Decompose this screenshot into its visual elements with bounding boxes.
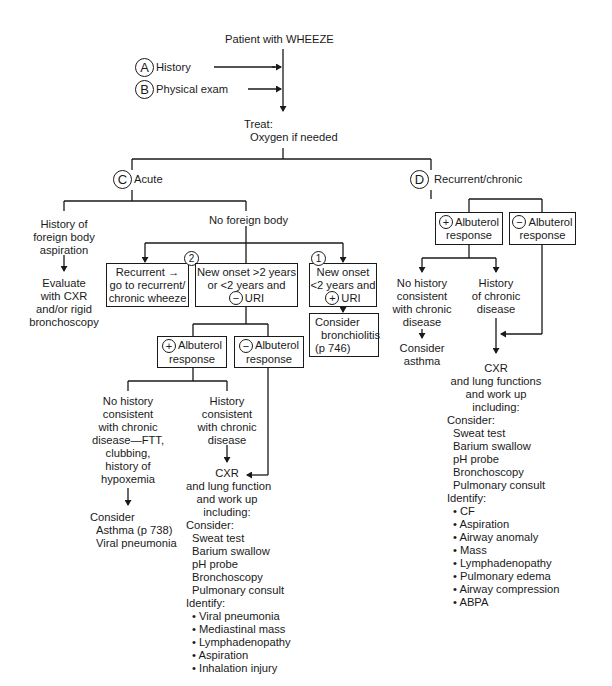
acute-workup: CXR and lung function and work up includ… <box>186 467 291 675</box>
foreign-body-history: History of foreign body aspiration <box>24 218 104 257</box>
recurrent-box: Recurrent → go to recurrent/ chronic whe… <box>106 263 189 307</box>
step-history: A History <box>135 58 191 77</box>
chronic-albuterol-positive-box: +Albuterol response <box>435 212 503 245</box>
plus-icon: + <box>325 291 339 305</box>
root-title: Patient with WHEEZE <box>225 33 334 46</box>
minus-icon: − <box>512 215 526 229</box>
treat-oxygen: Oxygen if needed <box>244 131 338 144</box>
new-onset-negative-uri-box: New onset >2 years or <2 years and − URI <box>195 263 298 307</box>
treat-label: Treat: <box>244 118 338 131</box>
plus-icon: + <box>439 215 453 229</box>
acute-history: History consistent with chronic disease <box>187 395 267 447</box>
minus-icon: − <box>239 339 253 353</box>
plus-icon: + <box>162 339 176 353</box>
step-physical-exam-label: Physical exam <box>156 83 228 96</box>
step-physical-exam: B Physical exam <box>135 80 228 99</box>
chronic-albuterol-negative-box: −Albuterol response <box>509 212 576 245</box>
chronic-branch: D Recurrent/chronic <box>410 170 522 189</box>
chronic-history: History of chronic disease <box>460 277 532 316</box>
chronic-no-history: No history consistent with chronic disea… <box>382 277 462 329</box>
acute-albuterol-positive-box: +Albuterol response <box>157 336 227 368</box>
marker-c-icon: C <box>113 170 132 189</box>
foreign-body-evaluate: Evaluate with CXR and/or rigid bronchosc… <box>24 277 104 329</box>
bronchiolitis-box: Consider bronchiolitis (p 746) <box>309 313 379 357</box>
acute-no-history: No history consistent with chronic disea… <box>83 395 173 486</box>
minus-icon: − <box>229 291 243 305</box>
acute-branch: C Acute <box>113 170 163 189</box>
new-onset-positive-uri-box: New onset <2 years and + URI <box>309 263 377 307</box>
acute-consider: Consider Asthma (p 738) Viral pneumonia <box>90 511 177 550</box>
marker-1-icon: 1 <box>311 251 326 266</box>
chronic-label: Recurrent/chronic <box>434 173 522 186</box>
chronic-workup: CXR and lung functions and work up inclu… <box>447 362 560 609</box>
no-foreign-body-label: No foreign body <box>209 214 288 227</box>
acute-albuterol-negative-box: −Albuterol response <box>234 336 304 368</box>
marker-d-icon: D <box>410 170 429 189</box>
marker-a-icon: A <box>135 58 154 77</box>
treat-node: Treat: Oxygen if needed <box>244 118 338 144</box>
acute-label: Acute <box>134 173 163 186</box>
marker-b-icon: B <box>135 80 154 99</box>
step-history-label: History <box>156 61 191 74</box>
